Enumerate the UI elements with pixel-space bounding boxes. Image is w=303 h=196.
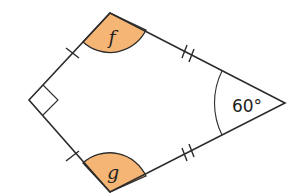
angle-60-label: 60° <box>232 96 262 116</box>
kite-diagram: f g 60° <box>0 0 303 196</box>
tick-bottom-left <box>66 151 79 161</box>
right-angle-marker <box>43 85 58 115</box>
angle-g-label: g <box>107 161 119 183</box>
angle-60-arc <box>214 71 222 135</box>
